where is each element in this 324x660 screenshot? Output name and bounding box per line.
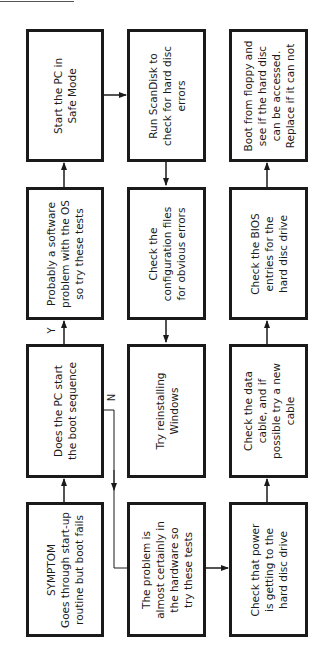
node-software-problem: Probably a software problem with the OS …: [26, 187, 104, 320]
node-text: Boot from floppy and see if the hard dis…: [241, 40, 297, 151]
yes-label: Y: [46, 327, 57, 333]
node-text: Check that power is getting to the hard …: [248, 523, 290, 616]
node-check-power: Check that power is getting to the hard …: [229, 502, 308, 637]
node-text: Try reinstalling Windows: [153, 373, 181, 450]
node-reinstall-windows: Try reinstalling Windows: [127, 344, 206, 478]
node-text: Check the configuration files for obviou…: [146, 206, 188, 300]
node-check-bios: Check the BIOS entries for the hard disc…: [229, 187, 308, 320]
node-symptom: SYMPTOM Goes through start-up routine bu…: [26, 502, 104, 637]
node-check-data-cable: Check the data cable, and if possible tr…: [229, 344, 308, 478]
node-text: Probably a software problem with the OS …: [44, 200, 86, 308]
node-text: Check the BIOS entries for the hard disc…: [248, 213, 290, 294]
node-text: Run ScanDisk to check for hard disc erro…: [146, 46, 188, 146]
node-config-files: Check the configuration files for obviou…: [127, 187, 206, 320]
node-text: The problem is almost certainly in the h…: [139, 521, 195, 619]
node-text: Check the data cable, and if possible tr…: [241, 363, 297, 459]
node-text: SYMPTOM Goes through start-up routine bu…: [44, 512, 86, 628]
node-boot-sequence-decision: Does the PC start the boot sequence: [26, 344, 104, 478]
node-safe-mode: Start the PC in Safe Mode: [26, 29, 104, 162]
no-label: N: [106, 394, 117, 401]
arrow-bootseq-no-path: [103, 410, 127, 568]
node-scandisk: Run ScanDisk to check for hard disc erro…: [127, 29, 206, 162]
node-text: Start the PC in Safe Mode: [51, 57, 79, 133]
node-boot-from-floppy: Boot from floppy and see if the hard dis…: [229, 29, 308, 162]
node-text: Does the PC start the boot sequence: [51, 362, 79, 460]
node-hardware-problem: The problem is almost certainly in the h…: [127, 502, 206, 637]
